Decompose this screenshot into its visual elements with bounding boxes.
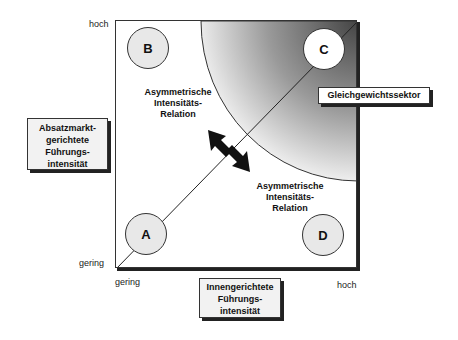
quadrant-d-label: D — [318, 228, 327, 243]
x-axis-low-label: gering — [115, 277, 140, 287]
quadrant-a-circle: A — [125, 213, 167, 255]
equilibrium-sector-label: Gleichgewichtssektor — [318, 87, 430, 104]
relation-lower-label: Asymmetrische Intensitäts- Relation — [240, 181, 340, 214]
x-axis-high-label: hoch — [337, 280, 357, 290]
quadrant-d-circle: D — [302, 214, 344, 256]
x-axis-title: Innengerichtete Führungs- intensität — [199, 278, 281, 318]
y-axis-title: Absatzmarkt- gerichtete Führungs- intens… — [27, 118, 108, 170]
quadrant-c-circle: C — [303, 28, 345, 70]
y-axis-high-label: hoch — [89, 19, 109, 29]
quadrant-b-circle: B — [127, 27, 169, 69]
relation-upper-label: Asymmetrische Intensitäts- Relation — [128, 87, 228, 120]
quadrant-a-label: A — [141, 227, 150, 242]
quadrant-c-label: C — [319, 42, 328, 57]
y-axis-low-label: gering — [79, 258, 104, 268]
quadrant-b-label: B — [143, 41, 152, 56]
